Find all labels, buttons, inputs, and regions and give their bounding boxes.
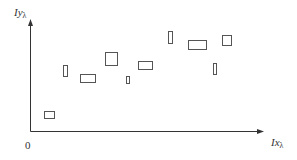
data-box bbox=[189, 41, 207, 50]
data-box bbox=[64, 66, 68, 77]
data-box bbox=[214, 64, 217, 75]
data-box bbox=[223, 36, 232, 46]
data-box bbox=[81, 75, 96, 83]
y-axis-label-subscript: λ bbox=[23, 11, 27, 20]
data-boxes bbox=[45, 32, 232, 119]
y-axis-label-main: Iy bbox=[14, 6, 23, 18]
x-axis-arrowhead-icon bbox=[257, 129, 264, 134]
data-box bbox=[169, 32, 173, 44]
data-box bbox=[139, 62, 153, 70]
x-axis-label: Ixλ bbox=[271, 137, 283, 150]
scatter-box-diagram bbox=[0, 0, 297, 160]
x-axis-label-subscript: λ bbox=[280, 141, 284, 150]
data-box bbox=[106, 53, 118, 66]
y-axis-arrowhead-icon bbox=[28, 19, 33, 26]
y-axis-label: Iyλ bbox=[14, 7, 26, 20]
origin-label: 0 bbox=[25, 140, 31, 151]
x-axis-label-main: Ix bbox=[271, 136, 280, 148]
data-box bbox=[127, 77, 130, 84]
data-box bbox=[45, 112, 55, 119]
